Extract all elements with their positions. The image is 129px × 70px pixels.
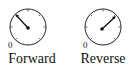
reverse-label: Reverse [71,51,129,67]
reverse-gauge: 0 Reverse [65,0,129,70]
forward-zero-label: 0 [8,40,13,50]
forward-label: Forward [0,51,64,67]
reverse-zero-label: 0 [83,40,88,50]
forward-needle [16,15,28,28]
reverse-dial-icon [65,0,129,52]
forward-gauge: 0 Forward [0,0,64,70]
reverse-needle [102,17,115,29]
